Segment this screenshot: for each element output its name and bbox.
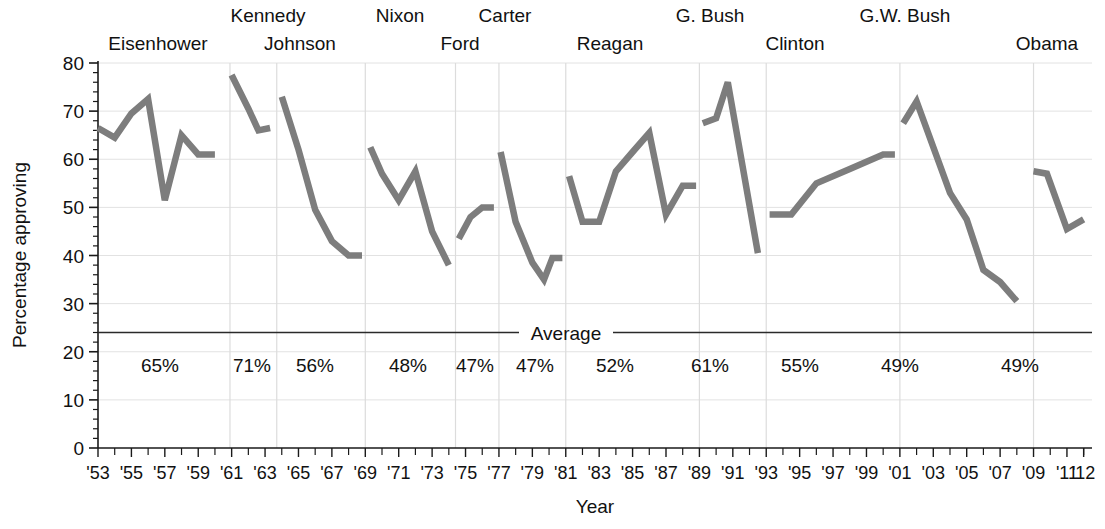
president-average-pct-label: 48% [389,355,427,376]
chart-svg: 01020304050607080'53'55'57'59'61'63'65'6… [0,0,1105,529]
x-axis-tick-label: '01 [888,463,911,483]
x-axis-tick-label: '83 [587,463,610,483]
x-axis-tick-label: '59 [187,463,210,483]
x-axis-tick-label: '91 [721,463,744,483]
approval-line-eisenhower [98,99,215,200]
x-axis-tick-label: '03 [922,463,945,483]
approval-line-kennedy [232,75,271,130]
y-axis-tick-label: 10 [63,390,84,411]
approval-line-clinton [770,154,895,214]
x-axis-tick-label: '69 [354,463,377,483]
x-axis-tick-label: '61 [220,463,243,483]
x-axis-tick-label: '99 [855,463,878,483]
approval-line-obama [1034,171,1084,229]
x-axis-tick-label: '63 [253,463,276,483]
president-label: Nixon [376,5,425,26]
x-axis-tick-label: '55 [120,463,143,483]
y-axis-tick-label: 80 [63,53,84,74]
president-average-pct-label: 49% [1001,355,1039,376]
president-average-pct-label: 52% [596,355,634,376]
x-axis-tick-label: '93 [755,463,778,483]
president-average-pct-label: 49% [881,355,919,376]
president-label: Obama [1016,33,1079,54]
president-label: Eisenhower [108,33,208,54]
x-axis-tick-label: '97 [821,463,844,483]
y-axis-tick-label: 40 [63,246,84,267]
approval-line-g-w-bush [903,102,1017,302]
x-axis-tick-label: '09 [1022,463,1045,483]
y-axis-title: Percentage approving [9,162,30,348]
x-axis-tick-label: '75 [454,463,477,483]
president-label: Johnson [264,33,336,54]
x-axis-tick-label: '73 [420,463,443,483]
approval-rating-chart: 01020304050607080'53'55'57'59'61'63'65'6… [0,0,1105,529]
president-average-pct-label: 71% [233,355,271,376]
x-axis-tick-label: '95 [788,463,811,483]
x-axis-tick-label: '77 [487,463,510,483]
president-average-pct-label: 56% [296,355,334,376]
approval-line-nixon [370,147,449,265]
x-axis-tick-label: '65 [287,463,310,483]
average-line-label: Average [531,323,601,344]
y-axis-tick-label: 0 [73,438,84,459]
approval-line-reagan [569,133,696,222]
y-axis-tick-label: 60 [63,149,84,170]
y-axis-tick-label: 70 [63,101,84,122]
y-axis-tick-label: 30 [63,294,84,315]
president-average-pct-label: 47% [456,355,494,376]
approval-line-johnson [282,97,362,256]
x-axis-tick-label: '87 [654,463,677,483]
x-axis-tick-label: '57 [153,463,176,483]
x-axis-tick-label: '53 [86,463,109,483]
approval-line-g-bush [703,82,758,253]
y-axis-tick-label: 20 [63,342,84,363]
president-average-pct-label: 61% [691,355,729,376]
approval-line-ford [459,207,494,238]
x-axis-tick-label: '85 [621,463,644,483]
president-label: Kennedy [230,5,306,26]
x-axis-tick-label: '12 [1072,463,1095,483]
president-average-pct-label: 55% [781,355,819,376]
x-axis-tick-label: '79 [521,463,544,483]
y-axis-tick-label: 50 [63,197,84,218]
president-label: G. Bush [676,5,745,26]
president-label: G.W. Bush [860,5,951,26]
president-label: Carter [479,5,532,26]
x-axis-tick-label: '89 [688,463,711,483]
x-axis-title: Year [576,496,615,517]
approval-line-carter [501,152,563,280]
x-axis-tick-label: '67 [320,463,343,483]
president-label: Ford [440,33,479,54]
president-label: Reagan [577,33,644,54]
president-average-pct-label: 47% [516,355,554,376]
president-label: Clinton [765,33,824,54]
x-axis-tick-label: '07 [988,463,1011,483]
president-average-pct-label: 65% [141,355,179,376]
x-axis-tick-label: '05 [955,463,978,483]
x-axis-tick-label: '71 [387,463,410,483]
x-axis-tick-label: '81 [554,463,577,483]
